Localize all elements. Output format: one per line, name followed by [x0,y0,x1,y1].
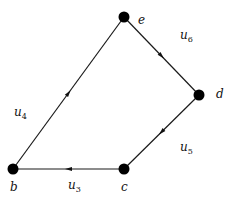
edge-label-u3: u3 [68,178,81,194]
edge-label-u6-base: u [180,28,188,42]
edge-label-u3-base: u [68,178,76,192]
edge-label-u4-base: u [14,105,22,119]
edge-label-u6: u6 [180,28,193,44]
edges-layer [13,17,199,169]
edge-label-u5-sub: 5 [188,147,193,156]
node-label-b: b [10,180,18,194]
node-label-c: c [121,180,128,194]
nodes-layer [8,12,205,175]
edge-label-u4: u4 [14,105,27,121]
node-label-e: e [138,13,145,27]
arrow-icon-u3 [65,167,72,171]
node-e [119,12,130,23]
node-label-d: d [216,87,224,101]
directed-graph: e d c b u4 u6 u5 u3 [0,0,234,200]
edge-label-u3-sub: 3 [76,185,81,194]
arrows-layer [65,52,166,171]
edge-label-u4-sub: 4 [22,112,27,121]
edge-label-u5-base: u [180,140,188,154]
node-c [119,164,130,175]
edge-label-u6-sub: 6 [188,35,193,44]
edge-label-u5: u5 [180,140,193,156]
node-b [8,164,19,175]
node-d [194,90,205,101]
